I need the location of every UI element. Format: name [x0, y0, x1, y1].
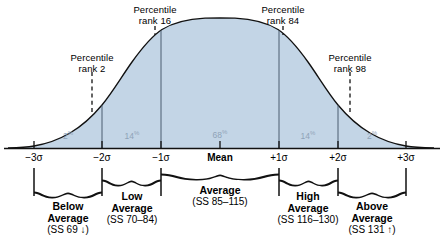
band-average-range: (SS 85–115) [170, 196, 270, 208]
callout-percentile-rank-2-line2: rank 2 [42, 64, 142, 75]
axis-label-mean: Mean [190, 152, 250, 164]
brace-high-average [279, 180, 338, 187]
axis-label-minus1sigma: −1σ [131, 152, 191, 164]
axis-label-plus1sigma: +1σ [249, 152, 309, 164]
brace-low-average [102, 180, 161, 187]
callout-percentile-rank-16-line2: rank 16 [105, 16, 205, 27]
brace-average [161, 174, 279, 181]
area-percent-left-14: 14% [112, 130, 152, 142]
axis-label-minus3sigma: −3σ [4, 152, 64, 164]
callout-percentile-rank-98-line2: rank 98 [300, 64, 400, 75]
area-percent-mid-68: 68% [200, 129, 240, 141]
band-label-average: Average (SS 85–115) [170, 184, 270, 208]
callout-percentile-rank-84: Percentile rank 84 [233, 5, 333, 27]
axis-label-minus2sigma: −2σ [72, 152, 132, 164]
band-above-average-line2: Average [322, 212, 422, 224]
area-percent-right-2: 2% [352, 130, 392, 142]
callout-percentile-rank-16: Percentile rank 16 [105, 5, 205, 27]
axis-label-plus3sigma: +3σ [376, 152, 436, 164]
normal-curve-figure: Percentile rank 2 Percentile rank 16 Per… [0, 0, 444, 250]
axis-label-plus2sigma: +2σ [308, 152, 368, 164]
callout-percentile-rank-84-line2: rank 84 [233, 16, 333, 27]
callout-percentile-rank-2: Percentile rank 2 [42, 53, 142, 75]
band-label-low-average: Low Average (SS 70–84) [82, 190, 182, 226]
area-percent-left-2: 2% [48, 130, 88, 142]
band-above-average-range: (SS 131 ↑) [322, 224, 422, 236]
band-above-average-line1: Above [322, 200, 422, 212]
band-average-line1: Average [170, 184, 270, 196]
area-percent-right-14: 14% [288, 130, 328, 142]
callout-percentile-rank-98: Percentile rank 98 [300, 53, 400, 75]
band-low-average-range: (SS 70–84) [82, 214, 182, 226]
band-low-average-line1: Low [82, 190, 182, 202]
band-label-above-average: Above Average (SS 131 ↑) [322, 200, 422, 236]
band-below-average-range: (SS 69 ↓) [18, 224, 118, 236]
band-low-average-line2: Average [82, 202, 182, 214]
